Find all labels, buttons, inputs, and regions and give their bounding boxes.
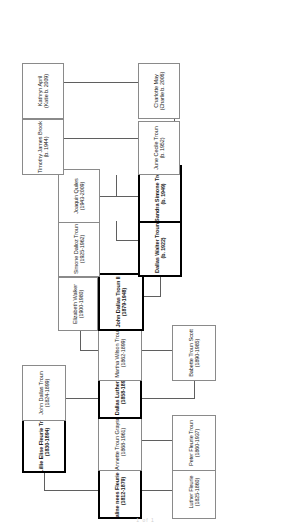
person-dates: (1890-1985) <box>194 339 200 367</box>
person-node-simone-dalloz-troun[interactable]: Simone Dalloz Troun (1925-1962) <box>58 221 100 277</box>
connector-line <box>116 175 117 197</box>
person-dates: (1830-1894) <box>44 428 50 456</box>
connector-line <box>44 471 45 491</box>
person-node-john-dallas-troun-ii[interactable]: John Dallas Troun II (1879-1948) <box>98 273 144 331</box>
connector-line <box>116 221 117 241</box>
person-dates: (1943-2009) <box>79 182 85 210</box>
person-dates: (b. 1944) <box>43 137 49 158</box>
person-node-dallas-walter-troun[interactable]: Dallas Walter Troun (b. 1922) <box>138 219 182 277</box>
person-dates: (1825-1860) <box>194 478 200 506</box>
person-dates: (b. 1949) <box>160 184 166 205</box>
person-dates: (1860-1937) <box>194 429 200 457</box>
person-dates: (b. 1922) <box>160 238 166 259</box>
person-dates: (1879-1948) <box>121 288 127 316</box>
person-node-timothy-james-brook[interactable]: Timothy James Brook (b. 1944) <box>22 119 64 175</box>
person-dates: (1812-1879) <box>120 477 126 505</box>
person-node-john-dallas-troun[interactable]: John Dallas Troun (1824-1899) <box>22 365 66 421</box>
person-dates: (1868-1961) <box>120 428 126 456</box>
person-dates: (1862-1899) <box>120 339 126 367</box>
person-node-luther-fleurie[interactable]: Luther Fleurie (1825-1860) <box>172 465 216 519</box>
person-dates: (1900-1980) <box>78 290 84 318</box>
person-node-elizabeth-walker[interactable]: Elizabeth Walker (1900-1980) <box>58 277 98 331</box>
person-dates: (1824-1899) <box>44 379 50 407</box>
connector-line <box>80 329 81 351</box>
connector-line <box>160 275 161 297</box>
person-node-peter-fleurie-troun[interactable]: Peter Fleurie Troun (1860-1937) <box>172 415 216 471</box>
family-tree-chart: Luther Fleurie (1825-1860) Annaline nees… <box>0 0 291 527</box>
connector-line <box>194 381 195 399</box>
person-dates: (b. 1952) <box>159 138 165 159</box>
person-node-martha-wilson-troun[interactable]: Martha Wilson Troun (1862-1899) <box>98 325 142 381</box>
page-marker: 1 of 1 <box>0 517 291 523</box>
person-dates: (Charlie b. 2006) <box>159 72 165 110</box>
person-dates: (1925-1962) <box>79 235 85 263</box>
chart-canvas: Luther Fleurie (1825-1860) Annaline nees… <box>0 0 291 527</box>
person-node-june-cecile-troun[interactable]: June Cecile Troun (b. 1952) <box>138 121 180 175</box>
person-node-babette-troun-scott[interactable]: Babette Troun Scott (1890-1985) <box>172 325 216 381</box>
person-node-joaquin-quiles[interactable]: Joaquin Quiles (1943-2009) <box>58 169 100 223</box>
person-node-charlotte-may[interactable]: Charlotte May (Charlie b. 2006) <box>138 63 180 119</box>
person-dates: (Katie b. 2009) <box>43 74 49 108</box>
person-node-annette-grayson[interactable]: Annette Troun Grayson (1868-1961) <box>98 413 142 471</box>
person-node-annaline-abbott[interactable]: Annaline nees Fleurie Abbott (1812-1879) <box>98 463 142 519</box>
person-node-kathryn-april[interactable]: Kathryn April (Katie b. 2009) <box>22 63 64 119</box>
